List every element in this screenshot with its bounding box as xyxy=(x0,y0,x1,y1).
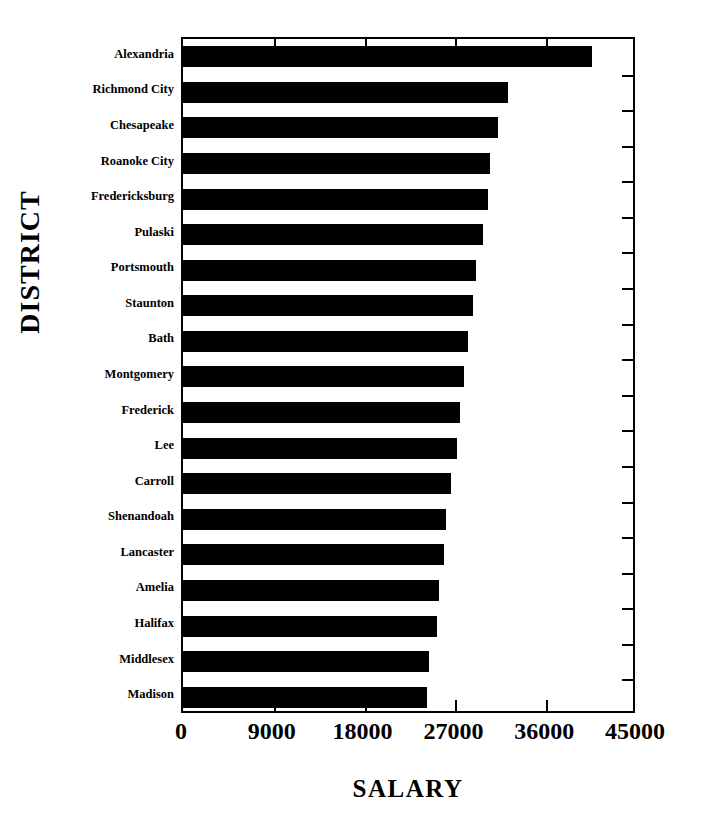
bar xyxy=(183,117,498,138)
bar xyxy=(183,260,476,281)
y-tick xyxy=(622,146,633,148)
bar xyxy=(183,295,473,316)
bar xyxy=(183,651,429,672)
bar-row xyxy=(183,359,633,395)
category-label: Roanoke City xyxy=(14,154,174,169)
category-label: Montgomery xyxy=(14,367,174,382)
y-tick xyxy=(622,217,633,219)
bar-row xyxy=(183,110,633,146)
x-tick-top xyxy=(365,39,367,50)
bar-row xyxy=(183,288,633,324)
y-tick xyxy=(622,466,633,468)
bar-row xyxy=(183,679,633,715)
category-label: Lee xyxy=(14,438,174,453)
bar xyxy=(183,402,460,423)
bar xyxy=(183,544,444,565)
bar xyxy=(183,473,451,494)
x-axis-title: SALARY xyxy=(181,775,635,803)
x-tick-bottom xyxy=(546,700,548,711)
bar-row xyxy=(183,608,633,644)
bar xyxy=(183,509,446,530)
category-label: Carroll xyxy=(14,474,174,489)
category-label: Staunton xyxy=(14,296,174,311)
x-tick-bottom xyxy=(365,700,367,711)
y-tick xyxy=(622,644,633,646)
y-tick xyxy=(622,395,633,397)
bar-row xyxy=(183,75,633,111)
x-tick-top xyxy=(455,39,457,50)
bar xyxy=(183,366,464,387)
bar xyxy=(183,189,488,210)
bar-row xyxy=(183,430,633,466)
x-axis-tick-labels: 0900018000270003600045000 xyxy=(0,718,701,752)
y-tick xyxy=(622,359,633,361)
bar xyxy=(183,153,490,174)
category-label: Halifax xyxy=(14,616,174,631)
bar-row xyxy=(183,537,633,573)
y-tick xyxy=(622,252,633,254)
bar xyxy=(183,224,483,245)
category-label: Frederick xyxy=(14,403,174,418)
bar xyxy=(183,616,437,637)
bar xyxy=(183,438,457,459)
y-tick xyxy=(622,110,633,112)
bar-row xyxy=(183,39,633,75)
bar-row xyxy=(183,217,633,253)
y-tick xyxy=(622,288,633,290)
y-tick xyxy=(622,679,633,681)
y-axis-category-labels: AlexandriaRichmond CityChesapeakeRoanoke… xyxy=(8,37,174,713)
category-label: Middlesex xyxy=(14,652,174,667)
category-label: Madison xyxy=(14,687,174,702)
bar-chart: DISTRICT AlexandriaRichmond CityChesapea… xyxy=(0,0,701,836)
x-tick-bottom xyxy=(455,700,457,711)
bar xyxy=(183,331,468,352)
y-tick xyxy=(622,502,633,504)
category-label: Portsmouth xyxy=(14,260,174,275)
bar xyxy=(183,46,592,67)
y-tick xyxy=(622,430,633,432)
category-label: Bath xyxy=(14,331,174,346)
y-tick xyxy=(622,537,633,539)
y-tick xyxy=(622,608,633,610)
bar xyxy=(183,82,508,103)
y-tick xyxy=(622,573,633,575)
bar-row xyxy=(183,146,633,182)
bar-row xyxy=(183,573,633,609)
x-tick-label: 45000 xyxy=(575,718,695,745)
y-tick xyxy=(622,324,633,326)
bar-row xyxy=(183,466,633,502)
plot-area xyxy=(181,37,635,713)
bar xyxy=(183,687,427,708)
category-label: Shenandoah xyxy=(14,509,174,524)
bar-row xyxy=(183,181,633,217)
category-label: Chesapeake xyxy=(14,118,174,133)
y-tick xyxy=(622,75,633,77)
bar-series xyxy=(183,39,633,711)
x-tick-top xyxy=(274,39,276,50)
category-label: Pulaski xyxy=(14,225,174,240)
y-tick xyxy=(622,181,633,183)
bar-row xyxy=(183,502,633,538)
category-label: Amelia xyxy=(14,580,174,595)
bar-row xyxy=(183,644,633,680)
category-label: Lancaster xyxy=(14,545,174,560)
x-tick-bottom xyxy=(274,700,276,711)
category-label: Fredericksburg xyxy=(14,189,174,204)
category-label: Alexandria xyxy=(14,47,174,62)
bar-row xyxy=(183,252,633,288)
bar-row xyxy=(183,324,633,360)
x-tick-top xyxy=(546,39,548,50)
bar-row xyxy=(183,395,633,431)
category-label: Richmond City xyxy=(14,82,174,97)
bar xyxy=(183,580,439,601)
